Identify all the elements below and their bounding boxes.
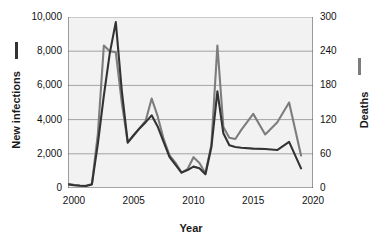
x-tick-label: 2015 bbox=[233, 195, 273, 206]
y-left-tick-label: 4,000 bbox=[18, 114, 62, 125]
y-left-tick-label: 0 bbox=[18, 182, 62, 193]
y-right-tick-label: 60 bbox=[320, 148, 352, 159]
x-axis-title: Year bbox=[68, 222, 314, 234]
y-right-tick-label: 0 bbox=[320, 182, 352, 193]
x-tick-label: 2000 bbox=[54, 195, 94, 206]
plot-area bbox=[68, 17, 313, 188]
y-right-tick-label: 300 bbox=[320, 11, 352, 22]
y-right-tick-label: 180 bbox=[320, 79, 352, 90]
chart-figure: New infections Deaths Year 02,0004,0006,… bbox=[0, 0, 374, 242]
y-left-tick-label: 2,000 bbox=[18, 148, 62, 159]
y-right-tick-label: 120 bbox=[320, 114, 352, 125]
y-left-tick-label: 6,000 bbox=[18, 79, 62, 90]
y-axis-right-title: Deaths bbox=[358, 55, 370, 165]
y-left-tick-label: 10,000 bbox=[18, 11, 62, 22]
x-tick-label: 2020 bbox=[293, 195, 333, 206]
chart-canvas bbox=[68, 17, 313, 188]
y-left-tick-label: 8,000 bbox=[18, 45, 62, 56]
y-right-tick-label: 240 bbox=[320, 45, 352, 56]
x-tick-label: 2005 bbox=[114, 195, 154, 206]
x-tick-label: 2010 bbox=[173, 195, 213, 206]
